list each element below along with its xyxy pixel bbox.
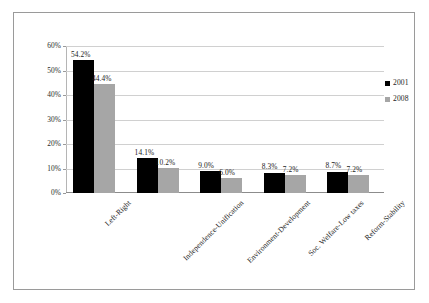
y-axis-tick-label: 50%	[47, 67, 61, 74]
bar-value-label: 6.0%	[219, 169, 235, 176]
bar-2001	[327, 172, 348, 193]
bar-2008	[158, 168, 179, 193]
y-axis-tick-mark	[63, 193, 66, 194]
x-axis-category-label: Soc. Welfare-Low taxes	[307, 199, 365, 257]
legend-label-2008: 2008	[393, 95, 409, 103]
bar-value-label: 7.2%	[346, 166, 362, 173]
y-axis-tick-label: 30%	[47, 116, 61, 123]
legend-label-2001: 2001	[393, 79, 409, 87]
legend-item-2008: 2008	[385, 91, 429, 107]
y-axis-tick-label: 0%	[51, 189, 61, 196]
bar-group: 14.1%10.2%	[130, 46, 194, 193]
bar-value-label: 54.2%	[71, 51, 91, 58]
x-axis-category-label: Independence-Unification	[182, 199, 245, 262]
x-axis-category-label: Environment-Development	[246, 199, 312, 265]
bar-group: 54.2%44.4%	[66, 46, 130, 193]
bar-2001	[200, 171, 221, 193]
bar-value-label: 10.2%	[156, 159, 176, 166]
bar-value-label: 8.7%	[325, 162, 341, 169]
bar-2008	[94, 84, 115, 193]
legend-item-2001: 2001	[385, 75, 429, 91]
x-axis-category-label: Reform-Stability	[364, 199, 407, 242]
bar-group: 9.0%6.0%	[193, 46, 257, 193]
bar-2001	[264, 173, 285, 193]
y-axis-tick-label: 60%	[47, 42, 61, 49]
bar-value-label: 8.3%	[262, 163, 278, 170]
chart-frame: 0%10%20%30%40%50%60% 54.2%44.4%14.1%10.2…	[13, 12, 415, 290]
bar-2001	[137, 158, 158, 193]
plot-area: 0%10%20%30%40%50%60% 54.2%44.4%14.1%10.2…	[66, 46, 384, 193]
bar-group: 8.7%7.2%	[320, 46, 384, 193]
bar-2008	[285, 175, 306, 193]
chart-legend: 2001 2008	[385, 75, 429, 107]
bar-2008	[221, 178, 242, 193]
bar-value-label: 14.1%	[135, 149, 155, 156]
bar-value-label: 7.2%	[283, 166, 299, 173]
y-axis-tick-label: 40%	[47, 91, 61, 98]
y-axis-tick-label: 20%	[47, 140, 61, 147]
bar-group: 8.3%7.2%	[257, 46, 321, 193]
bar-value-label: 44.4%	[92, 75, 112, 82]
legend-swatch-icon-2001	[385, 81, 390, 86]
y-axis-tick-label: 10%	[47, 165, 61, 172]
legend-swatch-icon-2008	[385, 97, 390, 102]
x-axis-category-label: Left-Right	[104, 199, 133, 228]
bar-value-label: 9.0%	[198, 162, 214, 169]
bar-2008	[348, 175, 369, 193]
bar-2001	[73, 60, 94, 193]
